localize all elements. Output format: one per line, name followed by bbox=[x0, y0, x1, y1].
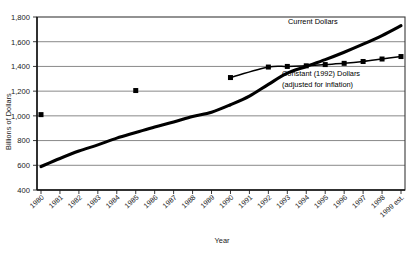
x-tick-labels-group: 1980198119821983198419851986198719881989… bbox=[28, 193, 406, 219]
x-tick-label: 1984 bbox=[104, 193, 122, 210]
x-tick-label: 1990 bbox=[217, 193, 235, 210]
data-point-marker bbox=[380, 57, 385, 62]
data-point-marker bbox=[39, 112, 44, 117]
x-tick-label: 1983 bbox=[85, 193, 103, 210]
y-tick-label: 1,200 bbox=[11, 87, 30, 96]
annotation-constant-dollars: Constant (1992) Dollars bbox=[282, 69, 360, 78]
x-tick-label: 1987 bbox=[161, 193, 179, 210]
y-tick-label: 400 bbox=[17, 186, 30, 195]
y-tick-label: 1,600 bbox=[11, 38, 30, 47]
x-tick-label: 1992 bbox=[255, 193, 273, 210]
y-tick-label: 600 bbox=[17, 161, 30, 170]
data-point-marker bbox=[361, 59, 366, 64]
x-axis-title: Year bbox=[215, 236, 230, 245]
data-point-marker bbox=[228, 75, 233, 80]
x-tick-label: 1981 bbox=[47, 193, 65, 210]
annotation-adjusted-for-inflation: (adjusted for inflation) bbox=[282, 80, 353, 89]
x-tick-label: 1989 bbox=[198, 193, 216, 210]
data-point-marker bbox=[266, 65, 271, 70]
data-point-marker bbox=[323, 62, 328, 67]
x-tick-label: 1996 bbox=[331, 193, 349, 210]
x-tick-label: 1994 bbox=[293, 193, 311, 210]
x-tick-label: 1982 bbox=[66, 193, 84, 210]
data-point-marker bbox=[304, 63, 309, 68]
x-tick-label: 1993 bbox=[274, 193, 292, 210]
x-tick-label: 1991 bbox=[236, 193, 254, 210]
x-tick-label: 1988 bbox=[180, 193, 198, 210]
x-tick-label: 1995 bbox=[312, 193, 330, 210]
chart-svg: 4006008001,0001,2001,4001,6001,800 19801… bbox=[0, 0, 412, 257]
x-tick-label: 1986 bbox=[142, 193, 160, 210]
x-tick-label: 1980 bbox=[28, 193, 46, 210]
y-tick-label: 1,400 bbox=[11, 62, 30, 71]
x-tick-label: 1985 bbox=[123, 193, 141, 210]
y-axis-title: Billions of Dollars bbox=[4, 93, 13, 150]
chart-container: 4006008001,0001,2001,4001,6001,800 19801… bbox=[0, 0, 412, 257]
y-tick-label: 1,000 bbox=[11, 112, 30, 121]
plot-area-background bbox=[37, 17, 405, 190]
y-tick-label: 1,800 bbox=[11, 13, 30, 22]
data-point-marker bbox=[399, 54, 404, 59]
y-tick-label: 800 bbox=[17, 136, 30, 145]
annotation-current-dollars: Current Dollars bbox=[288, 17, 338, 26]
data-point-marker bbox=[342, 61, 347, 66]
x-tick-label: 1997 bbox=[350, 193, 368, 210]
y-tick-labels-group: 4006008001,0001,2001,4001,6001,800 bbox=[11, 13, 30, 195]
data-point-marker bbox=[133, 88, 138, 93]
